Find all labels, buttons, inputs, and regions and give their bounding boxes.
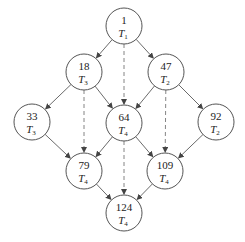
node-109: 109T4	[147, 153, 183, 189]
nodes: 1T118T347T233T364T492T279T4109T4124T4	[14, 8, 234, 231]
node-1: 1T1	[106, 8, 142, 44]
node-47: 47T2	[148, 54, 184, 90]
edge-n18-n33	[46, 84, 71, 108]
edge-n92-n109	[179, 134, 203, 157]
node-value: 64	[119, 111, 131, 123]
node-value: 92	[211, 110, 222, 122]
edge-n64-n109	[136, 137, 153, 157]
node-79: 79T4	[66, 153, 102, 189]
edge-n64-n79	[96, 137, 112, 157]
edge-n47-n64	[136, 86, 154, 108]
dag-diagram: 1T118T347T233T364T492T279T4109T4124T4	[0, 0, 245, 242]
node-33: 33T3	[14, 104, 50, 140]
node-124: 124T4	[106, 195, 142, 231]
node-value: 79	[79, 159, 91, 171]
dashed-edge-n47-n109	[165, 90, 166, 152]
edge-n33-n79	[45, 134, 70, 158]
node-value: 124	[116, 201, 133, 213]
edge-n109-n124	[137, 184, 152, 200]
edge-n1-n47	[136, 39, 153, 58]
node-value: 18	[79, 60, 91, 72]
edge-n79-n124	[96, 184, 110, 199]
node-value: 109	[157, 159, 174, 171]
node-92: 92T2	[198, 104, 234, 140]
node-value: 1	[121, 14, 127, 26]
edge-n47-n92	[179, 85, 203, 109]
edge-n1-n18	[96, 40, 112, 58]
edge-n18-n64	[95, 86, 112, 108]
node-64: 64T4	[106, 105, 142, 141]
node-18: 18T3	[66, 54, 102, 90]
node-value: 47	[161, 60, 173, 72]
node-value: 33	[27, 110, 39, 122]
